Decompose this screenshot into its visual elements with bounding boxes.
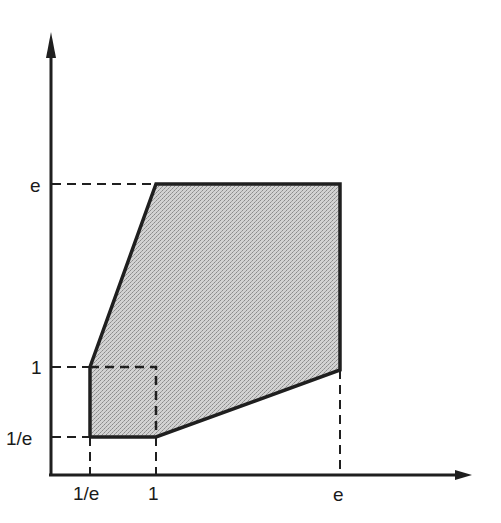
x-label-1e: 1/e bbox=[73, 483, 99, 504]
x-label-e: e bbox=[333, 484, 344, 505]
y-label-1e: 1/e bbox=[6, 428, 32, 449]
x-axis-arrow-icon bbox=[455, 470, 472, 480]
shaded-region bbox=[90, 184, 340, 437]
y-axis-arrow-icon bbox=[46, 32, 56, 58]
x-label-1: 1 bbox=[148, 483, 159, 504]
y-label-e: e bbox=[30, 175, 41, 196]
diagram-canvas: e 1 1/e 1/e 1 e bbox=[0, 0, 501, 523]
y-label-1: 1 bbox=[31, 357, 42, 378]
